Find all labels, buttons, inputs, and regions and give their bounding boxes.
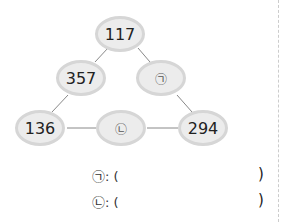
dashed-divider <box>278 0 279 222</box>
node-bottom-right: 294 <box>178 110 228 146</box>
answer-close-a: ) <box>258 165 264 183</box>
node-left-mid: 357 <box>56 60 106 96</box>
node-bottom-left: 136 <box>15 110 65 146</box>
node-top: 117 <box>95 16 145 52</box>
answer-label-a: ㉠: ( <box>92 166 119 185</box>
answer-label-b: ㉡: ( <box>92 192 119 211</box>
answer-close-b: ) <box>258 191 264 209</box>
node-right-mid-blank: ㉠ <box>136 60 186 96</box>
node-bottom-mid-blank: ㉡ <box>96 110 146 146</box>
